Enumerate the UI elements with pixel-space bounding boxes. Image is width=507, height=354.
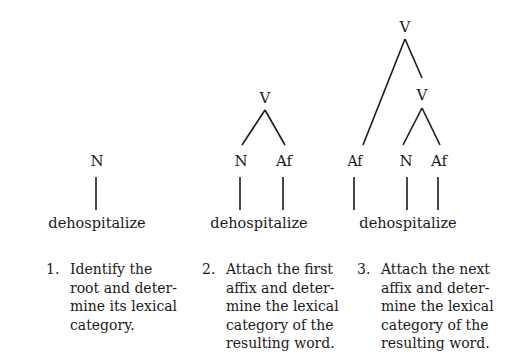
tree1-word: dehospitalize (48, 215, 145, 231)
tree2-branch-right (265, 110, 285, 145)
tree3-node-left: Af (346, 153, 364, 169)
tree2-node-right: Af (275, 152, 294, 170)
tree3-branch-mid-left (403, 108, 422, 145)
tree2-word: dehospitalize (210, 215, 307, 231)
step2-number: 2. (202, 260, 215, 279)
step3-text: Attach the next affix and deter- mine th… (381, 260, 494, 353)
tree3-word: dehospitalize (359, 215, 456, 231)
tree3-node-center: N (399, 152, 412, 170)
tree3-node-right: Af (430, 152, 449, 170)
tree3-node-mid: V (416, 86, 429, 104)
tree3-branch-top-left (363, 39, 405, 145)
tree3-branch-top-right (405, 39, 422, 78)
step1-number: 1. (46, 260, 59, 279)
tree3-branch-mid-right (422, 108, 440, 145)
tree2-branch-left (242, 110, 265, 145)
step1-text: Identify the root and deter- mine its le… (70, 260, 177, 334)
tree3-node-top: V (399, 18, 412, 36)
step3-number: 3. (357, 260, 370, 279)
tree2-node-left: N (234, 152, 247, 170)
step2-text: Attach the first affix and deter- mine t… (226, 260, 339, 353)
tree1-node-root: N (90, 152, 103, 170)
tree2-node-top: V (259, 89, 272, 107)
